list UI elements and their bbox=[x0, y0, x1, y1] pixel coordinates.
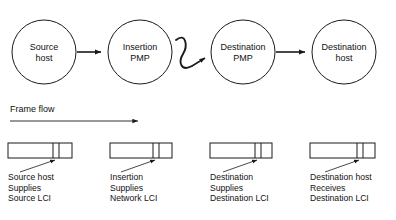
frame-box-2 bbox=[110, 143, 172, 172]
node-label-source-host-line1: Source bbox=[30, 42, 59, 53]
frame-pointer-1 bbox=[20, 160, 55, 172]
frame-pointer-4 bbox=[325, 160, 359, 172]
frame-caption-2-line1: Insertion bbox=[110, 172, 157, 183]
node-label-destination-pmp-line2: PMP bbox=[220, 52, 265, 63]
frame-flow-label: Frame flow bbox=[10, 104, 55, 114]
node-label-insertion-pmp-line2: PMP bbox=[123, 52, 158, 63]
frame-box-1 bbox=[8, 143, 72, 172]
frame-caption-1-line2: Supplies bbox=[8, 183, 54, 194]
frame-caption-3-line1: Destination bbox=[210, 172, 269, 183]
node-label-destination-host: Destination host bbox=[321, 42, 366, 63]
node-label-insertion-pmp: Insertion PMP bbox=[123, 42, 158, 63]
frame-caption-2-line2: Supplies bbox=[110, 183, 157, 194]
node-label-destination-host-line1: Destination bbox=[321, 42, 366, 53]
frame-caption-1: Source host Supplies Source LCI bbox=[8, 172, 54, 204]
frame-pointer-2 bbox=[121, 160, 155, 172]
frame-caption-3: Destination Supplies Destination LCI bbox=[210, 172, 269, 204]
frame-caption-1-line1: Source host bbox=[8, 172, 54, 183]
network-frame-flow-diagram: Source host Insertion PMP Destination PM… bbox=[0, 0, 396, 220]
node-label-destination-host-line2: host bbox=[321, 52, 366, 63]
frame-caption-2-line3: Network LCI bbox=[110, 193, 157, 204]
node-label-destination-pmp-line1: Destination bbox=[220, 42, 265, 53]
frame-caption-3-line2: Supplies bbox=[210, 183, 269, 194]
node-label-source-host: Source host bbox=[30, 42, 59, 63]
node-label-insertion-pmp-line1: Insertion bbox=[123, 42, 158, 53]
connector-squiggle-network bbox=[176, 38, 192, 68]
frame-caption-4-line1: Destination host bbox=[310, 172, 372, 183]
frame-box-3 bbox=[210, 143, 272, 172]
frame-caption-4: Destination host Receives Destination LC… bbox=[310, 172, 372, 204]
frame-caption-2: Insertion Supplies Network LCI bbox=[110, 172, 157, 204]
frame-pointer-3 bbox=[223, 160, 257, 172]
frame-box-4 bbox=[310, 143, 375, 172]
frame-caption-3-line3: Destination LCI bbox=[210, 193, 269, 204]
frame-caption-1-line3: Source LCI bbox=[8, 193, 54, 204]
frame-caption-4-line3: Destination LCI bbox=[310, 193, 372, 204]
frame-caption-4-line2: Receives bbox=[310, 183, 372, 194]
connector-squiggle-arrow-tail bbox=[192, 58, 205, 66]
node-label-source-host-line2: host bbox=[30, 52, 59, 63]
node-label-destination-pmp: Destination PMP bbox=[220, 42, 265, 63]
